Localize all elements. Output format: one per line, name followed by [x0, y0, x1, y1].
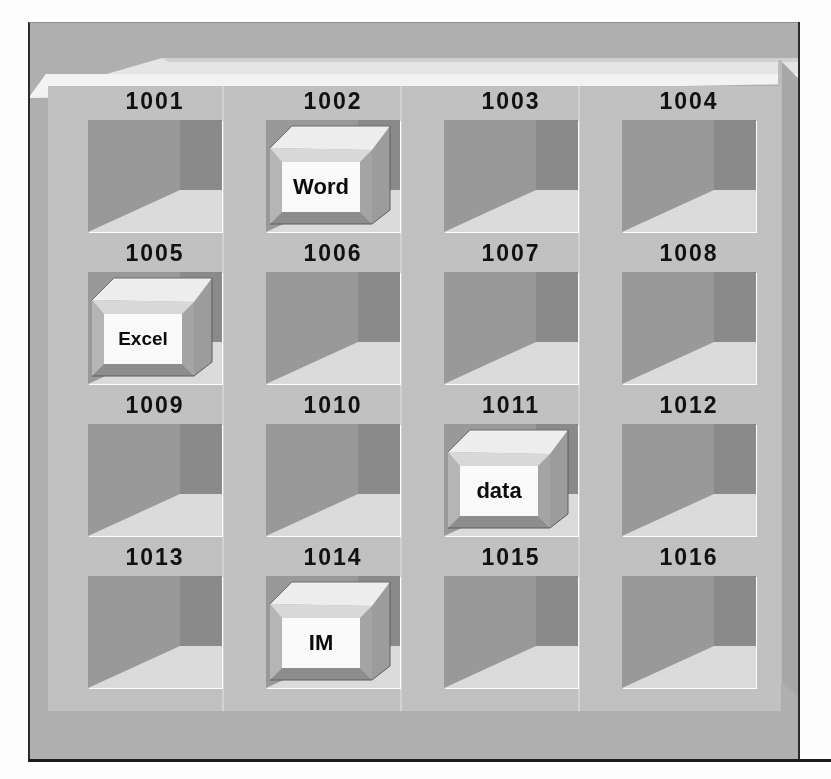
memory-slot-1006[interactable]: 1006 — [226, 238, 404, 390]
figure-canvas: 10011002Word100310041005Excel10061007100… — [0, 0, 831, 779]
memory-slot-1016[interactable]: 1016 — [582, 542, 760, 694]
slot-empty-cubby[interactable] — [88, 424, 222, 536]
memory-slot-1002[interactable]: 1002Word — [226, 86, 404, 238]
slot-address-label: 1009 — [88, 390, 222, 420]
slot-address-label: 1012 — [622, 390, 756, 420]
memory-slot-1013[interactable]: 1013 — [48, 542, 226, 694]
slot-address-label: 1004 — [622, 86, 756, 116]
slot-empty-cubby[interactable] — [622, 120, 756, 232]
slot-occupied-box[interactable] — [88, 272, 222, 384]
slot-address-label: 1001 — [88, 86, 222, 116]
slot-address-label: 1003 — [444, 86, 578, 116]
slot-address-label: 1005 — [88, 238, 222, 268]
slot-empty-cubby[interactable] — [88, 576, 222, 688]
memory-slot-1015[interactable]: 1015 — [404, 542, 582, 694]
slot-empty-cubby[interactable] — [444, 576, 578, 688]
slot-address-label: 1002 — [266, 86, 400, 116]
slot-address-label: 1016 — [622, 542, 756, 572]
slot-empty-cubby[interactable] — [622, 272, 756, 384]
slot-panel: 10011002Word100310041005Excel10061007100… — [48, 86, 781, 711]
slot-address-label: 1008 — [622, 238, 756, 268]
memory-slot-1004[interactable]: 1004 — [582, 86, 760, 238]
page-margin-bottom — [0, 762, 831, 779]
slot-address-label: 1010 — [266, 390, 400, 420]
page-margin-left — [0, 0, 28, 779]
memory-slot-1012[interactable]: 1012 — [582, 390, 760, 542]
memory-slot-1005[interactable]: 1005Excel — [48, 238, 226, 390]
slot-address-label: 1006 — [266, 238, 400, 268]
slot-occupied-box[interactable] — [266, 576, 400, 688]
slot-empty-cubby[interactable] — [266, 272, 400, 384]
memory-slot-1014[interactable]: 1014IM — [226, 542, 404, 694]
slot-empty-cubby[interactable] — [444, 120, 578, 232]
slot-empty-cubby[interactable] — [266, 424, 400, 536]
memory-slot-1011[interactable]: 1011data — [404, 390, 582, 542]
slot-empty-cubby[interactable] — [622, 424, 756, 536]
slot-address-label: 1015 — [444, 542, 578, 572]
slot-occupied-box[interactable] — [266, 120, 400, 232]
memory-slot-1010[interactable]: 1010 — [226, 390, 404, 542]
memory-slot-1008[interactable]: 1008 — [582, 238, 760, 390]
slot-empty-cubby[interactable] — [444, 272, 578, 384]
memory-slot-grid: 10011002Word100310041005Excel10061007100… — [48, 86, 781, 711]
slot-empty-cubby[interactable] — [88, 120, 222, 232]
slot-address-label: 1007 — [444, 238, 578, 268]
slot-empty-cubby[interactable] — [622, 576, 756, 688]
cabinet-right-edge — [798, 22, 800, 762]
memory-slot-1009[interactable]: 1009 — [48, 390, 226, 542]
slot-address-label: 1014 — [266, 542, 400, 572]
memory-slot-1003[interactable]: 1003 — [404, 86, 582, 238]
memory-slot-1001[interactable]: 1001 — [48, 86, 226, 238]
slot-address-label: 1013 — [88, 542, 222, 572]
slot-address-label: 1011 — [444, 390, 578, 420]
slot-occupied-box[interactable] — [444, 424, 578, 536]
memory-slot-1007[interactable]: 1007 — [404, 238, 582, 390]
